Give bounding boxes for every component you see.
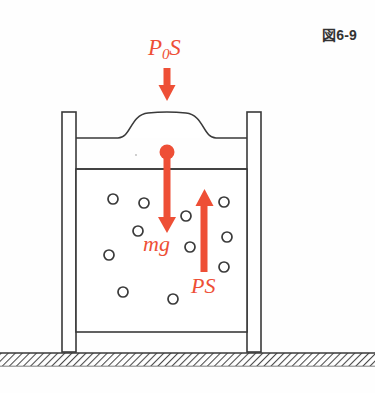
figure-caption: 図6-9 <box>322 24 357 44</box>
gas-molecule <box>139 198 149 208</box>
piston-knob-profile <box>76 112 247 138</box>
gas-molecule <box>118 287 128 297</box>
label-p0s-tail: S <box>169 35 181 60</box>
label-weight-force: mg <box>143 233 170 255</box>
label-p0s-base: P <box>148 35 162 60</box>
gas-molecule <box>104 250 114 260</box>
paper-speck <box>135 154 137 156</box>
piston <box>76 112 247 169</box>
gas-molecule <box>168 294 178 304</box>
atmospheric-pressure-arrow <box>159 68 176 101</box>
label-atmospheric-force: P0S <box>148 36 181 61</box>
label-gas-pressure-force: PS <box>191 275 215 297</box>
hatched-ground <box>0 353 375 366</box>
cylinder-right-wall <box>247 112 261 352</box>
physics-figure: 図6-9 P0S mg PS <box>0 0 375 393</box>
gas-molecule <box>133 226 143 236</box>
gas-molecule <box>222 232 232 242</box>
gas-molecule <box>219 262 229 272</box>
gas-molecule <box>181 211 191 221</box>
cylinder-left-wall <box>62 112 76 352</box>
gas-molecule <box>185 242 195 252</box>
gas-molecule <box>219 197 229 207</box>
gas-molecule <box>108 194 118 204</box>
diagram-canvas <box>0 0 375 393</box>
